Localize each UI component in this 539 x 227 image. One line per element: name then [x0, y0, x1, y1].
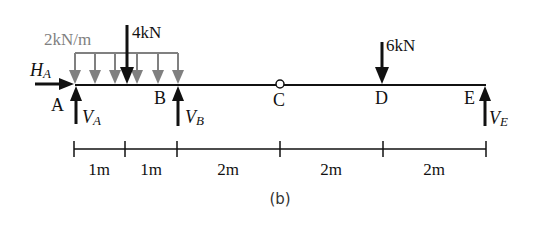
distributed-load-arrow: [69, 53, 81, 84]
beam-diagram: 2kN/m 4kN 6kN HA VA VB VE A B C D E: [0, 0, 539, 227]
point-load-6kN-label: 6kN: [386, 36, 415, 55]
reaction-VB-arrow: [172, 86, 184, 126]
dimension-label: 2m: [320, 160, 342, 179]
point-load-4kN-label: 4kN: [132, 23, 161, 42]
distributed-load-arrow: [152, 53, 164, 84]
dimension-label: 2m: [217, 160, 239, 179]
figure-caption: (b): [269, 190, 290, 208]
distributed-load-label: 2kN/m: [44, 30, 91, 49]
reaction-VA-arrow: [70, 86, 82, 124]
point-label-C: C: [273, 90, 285, 110]
reaction-VE-label: VE: [489, 108, 508, 129]
dimension-label: 1m: [88, 160, 110, 179]
reaction-VB-label: VB: [185, 107, 204, 128]
reaction-HA-label: HA: [29, 60, 51, 81]
point-label-B: B: [154, 88, 166, 108]
point-label-D: D: [375, 88, 388, 108]
point-label-A: A: [51, 95, 64, 115]
distributed-load-arrow: [89, 53, 101, 84]
reaction-VA-label: VA: [82, 107, 101, 128]
dimension-label: 2m: [423, 160, 445, 179]
distributed-load-arrow: [172, 53, 184, 84]
point-label-E: E: [464, 88, 475, 108]
distributed-load-arrow: [109, 53, 121, 84]
hinge-C: [276, 80, 284, 88]
dimension-line: [74, 141, 486, 157]
dimension-label: 1m: [140, 160, 162, 179]
